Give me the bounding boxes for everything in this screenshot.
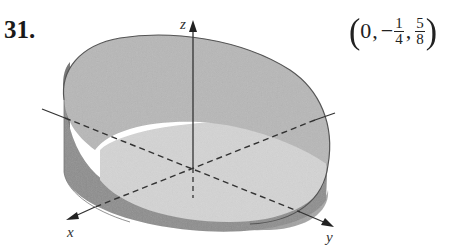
z-axis-label: z [179, 16, 186, 32]
z-arrow-icon [189, 20, 197, 32]
negative-x-solid [42, 109, 65, 118]
solid-figure: z x y [0, 0, 461, 250]
x-axis-label: x [66, 224, 74, 240]
y-arrow-icon [321, 218, 334, 227]
x-arrow-icon [66, 212, 79, 220]
y-axis-label: y [324, 229, 333, 245]
